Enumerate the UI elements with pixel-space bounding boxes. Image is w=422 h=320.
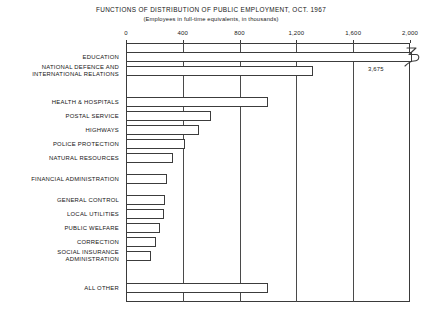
bar-3 [126, 111, 211, 121]
x-tick-label-1200: 1,200 [288, 30, 304, 36]
bar-6 [126, 153, 173, 163]
category-label-4: HIGHWAYS [1, 127, 119, 134]
x-tickmark-1200 [296, 40, 297, 43]
x-tickmark-0 [126, 40, 127, 43]
category-label-5: POLICE PROTECTION [1, 141, 119, 148]
category-label-8: GENERAL CONTROL [1, 197, 119, 204]
chart-root: FUNCTIONS OF DISTRIBUTION OF PUBLIC EMPL… [0, 0, 422, 320]
bar-5 [126, 139, 185, 149]
chart-subtitle: (Employees in full-time equivalents, in … [0, 15, 422, 24]
bar-value-annotation-education: 3,675 [368, 66, 384, 72]
x-axis-tick-labels: 04008001,2001,6002,000 [0, 30, 422, 40]
bar-1 [126, 66, 313, 76]
bar-7 [126, 174, 167, 184]
title-block: FUNCTIONS OF DISTRIBUTION OF PUBLIC EMPL… [0, 5, 422, 24]
category-label-12: SOCIAL INSURANCE ADMINISTRATION [1, 249, 119, 264]
gridline-800 [240, 43, 241, 302]
x-tick-label-2000: 2,000 [402, 30, 418, 36]
x-tick-label-800: 800 [234, 30, 245, 36]
gridline-1200 [296, 43, 297, 302]
category-label-0: EDUCATION [1, 54, 119, 61]
gridline-1600 [353, 43, 354, 302]
bar-8 [126, 195, 165, 205]
x-tickmark-2000 [410, 40, 411, 43]
x-tick-label-0: 0 [124, 30, 128, 36]
bar-4 [126, 125, 199, 135]
x-tickmark-400 [183, 40, 184, 43]
bar-13 [126, 283, 268, 293]
bar-10 [126, 223, 160, 233]
x-tick-label-1600: 1,600 [345, 30, 361, 36]
category-label-3: POSTAL SERVICE [1, 113, 119, 120]
bar-9 [126, 209, 164, 219]
chart-title: FUNCTIONS OF DISTRIBUTION OF PUBLIC EMPL… [0, 5, 422, 14]
category-label-7: FINANCIAL ADMINISTRATION [1, 176, 119, 183]
axis-break-squiggle-icon [403, 46, 422, 72]
category-label-9: LOCAL UTILITIES [1, 211, 119, 218]
category-label-2: HEALTH & HOSPITALS [1, 99, 119, 106]
x-tickmark-800 [240, 40, 241, 43]
x-tick-label-400: 400 [177, 30, 188, 36]
bar-0 [126, 52, 412, 62]
bar-2 [126, 97, 268, 107]
x-tickmark-1600 [353, 40, 354, 43]
gridline-400 [183, 43, 184, 302]
category-label-11: CORRECTION [1, 239, 119, 246]
category-label-13: ALL OTHER [1, 285, 119, 292]
category-label-6: NATURAL RESOURCES [1, 155, 119, 162]
plot-frame [126, 43, 410, 302]
bar-12 [126, 251, 151, 261]
category-label-10: PUBLIC WELFARE [1, 225, 119, 232]
bar-11 [126, 237, 156, 247]
category-label-1: NATIONAL DEFENCE AND INTERNATIONAL RELAT… [1, 64, 119, 79]
plot-area: 3,675 [126, 43, 410, 302]
